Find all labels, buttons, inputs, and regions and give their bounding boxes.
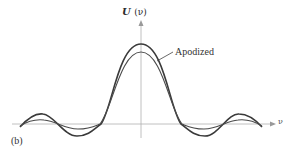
y-axis-arrow-icon: [139, 20, 144, 26]
apodization-figure: U (ν) ν Apodized (b): [0, 0, 294, 155]
x-axis-arrow-icon: [270, 122, 276, 127]
y-axis-title: U (ν): [122, 6, 147, 17]
plot-area: [0, 0, 294, 155]
panel-label: (b): [11, 135, 23, 146]
y-axis-argument: (ν): [134, 7, 147, 17]
annotation-leader-line: [157, 52, 173, 61]
y-axis-symbol: U: [122, 6, 131, 17]
apodized-annotation: Apodized: [175, 46, 214, 57]
x-axis-label: ν: [278, 117, 283, 126]
